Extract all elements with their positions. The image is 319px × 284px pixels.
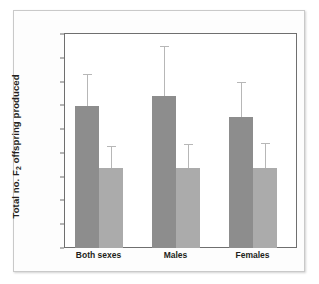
y-axis-title-subscript: 2 — [15, 166, 22, 170]
bar — [176, 168, 200, 248]
error-bar-cap — [107, 146, 116, 147]
error-bar-stem — [188, 144, 189, 168]
error-bar-cap — [184, 144, 193, 145]
error-bar-cap — [160, 46, 169, 47]
y-axis-title: Total no. F2 offspring produced — [10, 46, 23, 246]
error-bar-cap — [237, 82, 246, 83]
error-bar-cap — [83, 74, 92, 75]
bar — [152, 96, 176, 248]
bar — [99, 168, 123, 248]
x-axis-category-label: Males — [164, 250, 188, 260]
bar — [229, 117, 253, 248]
error-bar-stem — [164, 46, 165, 96]
x-axis-category-labels: Both sexesMalesFemales — [65, 250, 296, 270]
error-bar-stem — [87, 74, 88, 106]
bar — [75, 106, 99, 248]
x-axis-category-label: Females — [235, 250, 269, 260]
bar — [253, 168, 277, 248]
error-bar-cap — [261, 143, 270, 144]
plot-area — [65, 34, 296, 248]
error-bar-stem — [265, 143, 266, 168]
x-axis-category-label: Both sexes — [76, 250, 121, 260]
figure-container: 00.51.01.52.02.53.03.54.04.5 Total no. F… — [0, 0, 319, 284]
error-bar-stem — [241, 82, 242, 118]
error-bar-stem — [111, 146, 112, 168]
